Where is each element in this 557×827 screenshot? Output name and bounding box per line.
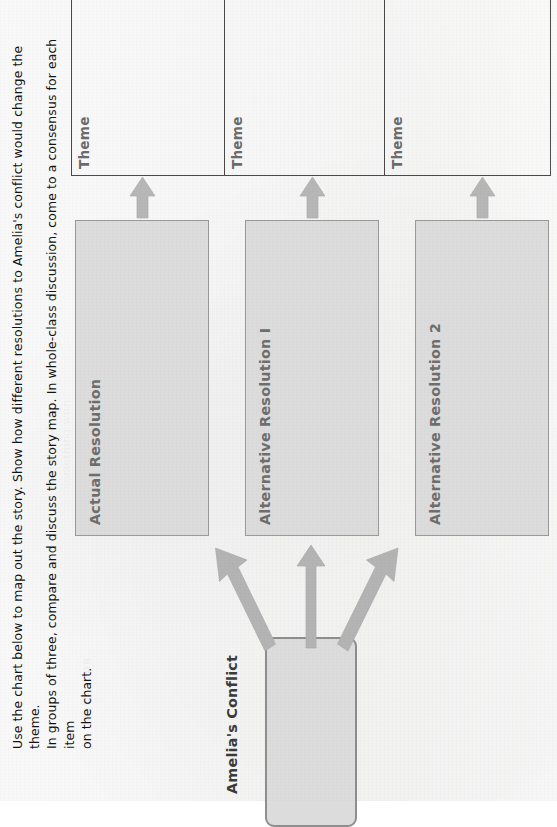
actual-resolution-label: Actual Resolution [87,379,103,525]
theme-label-2: Theme [229,116,245,169]
alternative-resolution-2-box[interactable]: Alternative Resolution 2 [415,220,549,536]
theme-cell-2[interactable]: Theme [224,0,384,175]
amelias-conflict-box[interactable] [265,637,357,827]
arrow-alternative-resolution-2-to-theme-icon [470,177,495,218]
alternative-resolution-1-box[interactable]: Alternative Resolution I [245,220,379,536]
arrow-alternative-resolution-1-to-theme-icon [300,177,325,218]
arrow-actual-resolution-to-theme-icon [130,177,155,218]
actual-resolution-box[interactable]: Actual Resolution [75,220,209,536]
theme-cell-1[interactable]: Theme [72,0,224,175]
arrow-conflict-to-alternative-resolution-1-icon [297,545,325,648]
theme-label-1: Theme [76,116,92,169]
arrow-conflict-to-alternative-resolution-2-icon [338,548,399,651]
amelias-conflict-label: Amelia's Conflict [224,655,240,794]
theme-cell-3[interactable]: Theme [384,0,552,175]
theme-row-table: Theme Theme Theme [71,0,551,176]
theme-label-3: Theme [389,116,405,169]
alternative-resolution-2-label: Alternative Resolution 2 [427,323,443,525]
alternative-resolution-1-label: Alternative Resolution I [257,328,273,525]
arrow-conflict-to-actual-resolution-icon [216,548,276,651]
